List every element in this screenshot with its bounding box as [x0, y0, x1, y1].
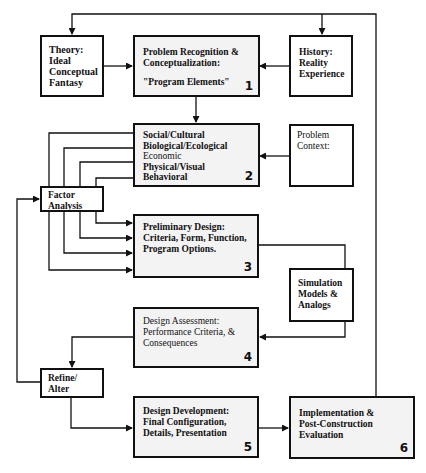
box4-line: Performance Criteria, & — [143, 327, 253, 338]
box3-line: Criteria, Form, Function, — [143, 233, 253, 244]
step-number: 6 — [400, 443, 408, 454]
problem-context-box: Problem Context: — [289, 124, 354, 187]
box2-line: Physical/Visual — [143, 162, 254, 173]
box2-line: Social/Cultural — [143, 130, 254, 141]
theory-box: Theory: Ideal Conceptual Fantasy — [40, 35, 104, 97]
box2-line: Economic — [143, 151, 254, 162]
box6-line: Implementation & — [299, 408, 409, 419]
step-number: 1 — [245, 81, 253, 92]
box1-line: Conceptualization: — [143, 58, 254, 69]
problem-recognition-box: Problem Recognition & Conceptualization:… — [133, 35, 260, 97]
step-number: 5 — [244, 442, 252, 453]
history-line: Reality — [299, 58, 347, 69]
history-line: Experience — [299, 69, 347, 80]
step-number: 3 — [244, 262, 252, 273]
box4-line: Consequences — [143, 338, 253, 349]
refine-line: Alter — [48, 384, 98, 395]
refine-alter-box: Refine/ Alter — [40, 368, 104, 398]
box4-line: Design Assessment: — [143, 316, 253, 327]
simulation-line: Models & — [298, 289, 348, 300]
theory-line: Conceptual — [49, 66, 98, 77]
design-assessment-box: Design Assessment: Performance Criteria,… — [133, 307, 259, 368]
box3-line: Preliminary Design: — [143, 222, 253, 233]
factor-line: Analysis — [48, 201, 98, 212]
step-number: 4 — [244, 352, 252, 363]
box6-line: Evaluation — [299, 430, 409, 441]
box1-line: Problem Recognition & — [143, 47, 254, 58]
design-development-box: Design Development: Final Configuration,… — [133, 396, 259, 458]
box3-line: Program Options. — [143, 244, 253, 255]
simulation-line: Simulation — [298, 278, 348, 289]
simulation-box: Simulation Models & Analogs — [289, 268, 354, 322]
factors-box: Social/Cultural Biological/Ecological Ec… — [133, 123, 260, 187]
preliminary-design-box: Preliminary Design: Criteria, Form, Func… — [133, 214, 259, 278]
history-box: History: Reality Experience — [289, 35, 353, 97]
theory-line: Theory: — [49, 44, 98, 55]
simulation-line: Analogs — [298, 300, 348, 311]
factor-line: Factor — [48, 190, 98, 201]
history-line: History: — [299, 47, 347, 58]
box5-line: Design Development: — [143, 406, 253, 417]
box5-line: Details, Presentation — [143, 428, 253, 439]
theory-line: Fantasy — [49, 77, 98, 88]
context-line: Context: — [297, 141, 348, 152]
step-number: 2 — [245, 171, 253, 182]
refine-line: Refine/ — [48, 373, 98, 384]
factor-analysis-box: Factor Analysis — [40, 186, 104, 212]
box1-subtitle: "Program Elements" — [143, 77, 254, 88]
box2-line: Biological/Ecological — [143, 141, 254, 152]
theory-line: Ideal — [49, 55, 98, 66]
box6-line: Post-Construction — [299, 419, 409, 430]
context-line: Problem — [297, 130, 348, 141]
box5-line: Final Configuration, — [143, 417, 253, 428]
implementation-box: Implementation & Post-Construction Evalu… — [289, 396, 415, 459]
box2-line: Behavioral — [143, 172, 254, 183]
